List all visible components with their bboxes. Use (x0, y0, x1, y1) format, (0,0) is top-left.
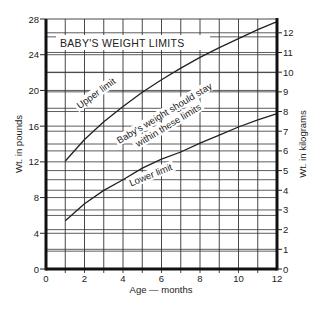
x-tick-label: 0 (43, 273, 48, 284)
y-tick-label-kilograms: 3 (283, 204, 288, 215)
y-tick-label-kilograms: 1 (283, 244, 288, 255)
y-tick-label-pounds: 28 (28, 14, 39, 25)
y-tick-label-kilograms: 9 (283, 86, 288, 97)
x-tick-label: 10 (233, 273, 244, 284)
weight-limits-chart: BABY'S WEIGHT LIMITS Upper limitBaby's w… (0, 0, 319, 312)
upper-limit-label: Upper limit (74, 75, 117, 111)
grid-lines (46, 19, 277, 273)
tick-labels: 02468101204812162024280123456789101112 (28, 14, 293, 285)
y-axis-label-kilograms: Wt. in kilograms (297, 110, 308, 178)
y-tick-label-pounds: 4 (34, 228, 39, 239)
y-tick-label-kilograms: 7 (283, 126, 288, 137)
x-tick-label: 2 (82, 273, 87, 284)
y-tick-label-kilograms: 2 (283, 224, 288, 235)
stay-within-label-line1: Baby's weight should stay (115, 80, 214, 146)
y-tick-label-pounds: 24 (28, 49, 39, 60)
x-tick-label: 6 (159, 273, 164, 284)
y-tick-label-pounds: 8 (34, 192, 39, 203)
y-tick-label-pounds: 0 (34, 264, 39, 275)
upper-limit-label-group: Upper limit (73, 74, 120, 112)
x-tick-label: 12 (272, 273, 283, 284)
x-tick-label: 8 (197, 273, 202, 284)
y-tick-label-kilograms: 12 (283, 27, 294, 38)
y-axis-label-pounds: Wt. in pounds (13, 115, 24, 173)
x-axis-label: Age — months (130, 284, 193, 295)
lower-limit-label: Lower limit (128, 161, 175, 188)
y-tick-label-pounds: 20 (28, 85, 39, 96)
y-tick-label-kilograms: 8 (283, 106, 288, 117)
y-tick-label-kilograms: 0 (283, 264, 288, 275)
y-tick-label-kilograms: 11 (283, 47, 293, 58)
y-tick-label-kilograms: 5 (283, 165, 288, 176)
y-tick-label-pounds: 16 (28, 121, 39, 132)
y-tick-label-kilograms: 4 (283, 185, 288, 196)
y-tick-label-pounds: 12 (28, 156, 39, 167)
chart-title: BABY'S WEIGHT LIMITS (60, 37, 185, 49)
y-tick-label-kilograms: 6 (283, 145, 288, 156)
y-tick-label-kilograms: 10 (283, 67, 294, 78)
x-tick-label: 4 (120, 273, 125, 284)
